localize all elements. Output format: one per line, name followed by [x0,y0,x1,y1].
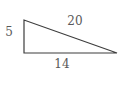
triangle-svg: 5 20 14 [0,0,123,87]
bottom-side-label: 14 [54,57,70,71]
left-side-label: 5 [5,25,13,39]
triangle-diagram: 5 20 14 [0,0,123,87]
hypotenuse-label: 20 [67,14,82,28]
